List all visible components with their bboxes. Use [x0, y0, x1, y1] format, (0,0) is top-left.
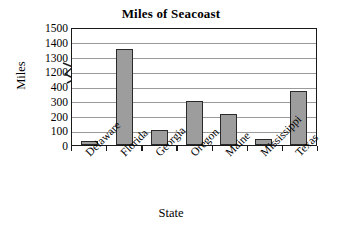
bar-slot [246, 29, 281, 145]
bar-chart: Miles of Seacoast Miles 0100200300400120… [0, 0, 342, 229]
bar-slot [211, 29, 246, 145]
y-axis-tick-label: 1200 [45, 67, 68, 78]
x-axis-label: State [0, 206, 342, 221]
chart-title: Miles of Seacoast [0, 6, 342, 22]
bar-slot [72, 29, 107, 145]
y-axis-tick-label: 100 [51, 126, 68, 137]
x-axis-category-labels: DelawareFloridaGeorgiaOregonMaineMississ… [71, 150, 317, 206]
y-axis-tick-label: 0 [62, 141, 68, 152]
y-axis-tick-label: 1400 [45, 37, 68, 48]
y-axis-tick-label: 300 [51, 96, 68, 107]
y-axis-tick-label: 400 [51, 82, 68, 93]
y-axis-tick-labels: 01002003004001200130014001500 [30, 28, 70, 146]
y-axis-tick-label: 1500 [45, 23, 68, 34]
y-axis-tick-label: 1300 [45, 52, 68, 63]
bar-slot [142, 29, 177, 145]
y-axis-label: Miles [14, 46, 29, 106]
y-axis-tick-label: 200 [51, 111, 68, 122]
x-axis-tick-mark [317, 146, 318, 151]
